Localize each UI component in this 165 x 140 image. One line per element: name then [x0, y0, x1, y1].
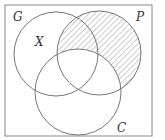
label-p: P [135, 10, 145, 24]
label-c: C [117, 121, 126, 135]
label-g: G [13, 10, 23, 24]
venn-diagram: G P C X [0, 0, 165, 140]
label-x: X [34, 35, 44, 49]
